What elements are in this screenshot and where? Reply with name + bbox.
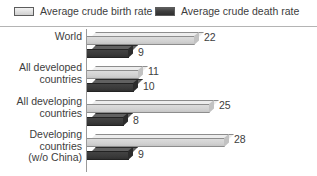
bar-value-birth-rate: 28	[234, 134, 246, 145]
bar-group-all-developing-countries: All developing countries 25 8	[0, 96, 317, 130]
bar-group-world: World 22 9	[0, 28, 317, 62]
chart-legend: Average crude birth rate Average crude d…	[0, 0, 317, 27]
legend-entry-death-rate: Average crude death rate	[155, 6, 299, 17]
bar-value-death-rate: 9	[138, 149, 144, 160]
bar-birth-rate	[87, 32, 199, 45]
bar-death-rate	[87, 147, 133, 160]
legend-label-death-rate: Average crude death rate	[181, 6, 299, 17]
bar-death-rate	[87, 79, 138, 92]
bar-group-all-developed-countries: All developed countries 11 10	[0, 62, 317, 96]
legend-label-birth-rate: Average crude birth rate	[40, 6, 152, 17]
birth-rate-swatch-icon	[14, 7, 34, 16]
bar-chart: Average crude birth rate Average crude d…	[0, 0, 317, 176]
bar-birth-rate	[87, 100, 214, 113]
bar-front-face	[87, 70, 139, 79]
category-label-line: All developed	[0, 62, 82, 74]
category-label: Developing countries (w/o China)	[0, 129, 82, 164]
bar-value-birth-rate: 22	[204, 32, 216, 43]
bar-value-death-rate: 9	[138, 47, 144, 58]
plot-area: World 22 9 All developed countries	[0, 27, 317, 176]
bar-front-face	[87, 138, 225, 147]
bar-value-birth-rate: 25	[219, 100, 231, 111]
category-label-line: All developing	[0, 96, 82, 108]
bar-front-face	[87, 36, 195, 45]
legend-entry-birth-rate: Average crude birth rate	[14, 6, 152, 17]
bar-value-death-rate: 8	[133, 115, 139, 126]
bar-front-face	[87, 117, 124, 126]
bar-birth-rate	[87, 66, 143, 79]
bar-value-death-rate: 10	[143, 81, 155, 92]
bar-front-face	[87, 104, 210, 113]
category-label-line: countries	[0, 108, 82, 120]
bar-group-developing-countries-wo-china: Developing countries (w/o China) 28 9	[0, 130, 317, 164]
bar-value-birth-rate: 11	[148, 66, 159, 77]
bar-front-face	[87, 83, 134, 92]
category-label-line: Developing	[0, 129, 82, 141]
bar-front-face	[87, 49, 129, 58]
bar-front-face	[87, 151, 129, 160]
bar-birth-rate	[87, 134, 229, 147]
bar-death-rate	[87, 45, 133, 58]
category-label: World	[0, 31, 82, 43]
bar-death-rate	[87, 113, 128, 126]
category-label-line: (w/o China)	[0, 152, 82, 164]
category-label-line: countries	[0, 74, 82, 86]
category-label: All developing countries	[0, 96, 82, 119]
category-label: All developed countries	[0, 62, 82, 85]
death-rate-swatch-icon	[155, 7, 175, 16]
category-label-line: World	[0, 31, 82, 43]
